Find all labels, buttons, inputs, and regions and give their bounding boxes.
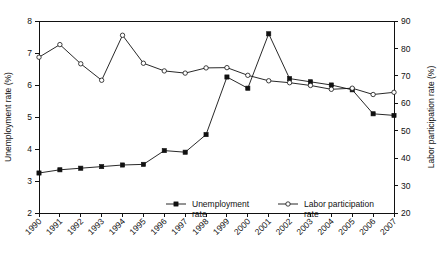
right-axis-title: Labor participation rate (%) xyxy=(426,66,436,169)
data-point-marker xyxy=(58,42,62,46)
x-axis-tick-label: 1991 xyxy=(44,216,65,237)
right-axis-tick-label: 60 xyxy=(401,98,411,108)
data-point-marker xyxy=(308,83,312,87)
left-axis-tick-label: 4 xyxy=(27,144,32,154)
data-point-marker xyxy=(246,73,250,77)
data-point-marker xyxy=(120,33,124,37)
left-axis-tick-label: 3 xyxy=(27,176,32,186)
data-point-marker xyxy=(225,65,229,69)
x-axis-tick-label: 2003 xyxy=(294,216,315,237)
left-axis-tick-label: 6 xyxy=(27,80,32,90)
x-axis-tick-label: 2006 xyxy=(357,216,378,237)
x-axis-tick-label: 2005 xyxy=(336,216,357,237)
data-point-marker xyxy=(371,112,375,116)
x-axis-tick-label: 1998 xyxy=(190,216,211,237)
right-axis-tick-label: 20 xyxy=(401,208,411,218)
left-axis-tick-label: 5 xyxy=(27,112,32,122)
data-point-marker xyxy=(329,87,333,91)
x-axis-tick-label: 1995 xyxy=(127,216,148,237)
data-point-marker xyxy=(204,133,208,137)
data-point-marker xyxy=(225,75,229,79)
x-axis-tick-label: 2007 xyxy=(378,216,399,237)
series-line-unemployment xyxy=(39,34,394,173)
data-point-marker xyxy=(329,83,333,87)
data-point-marker xyxy=(141,61,145,65)
x-axis-tick-label: 1994 xyxy=(106,216,127,237)
left-axis-tick-label: 7 xyxy=(27,48,32,58)
data-point-marker xyxy=(371,92,375,96)
legend-marker-open-circle xyxy=(286,202,290,206)
x-axis-tick-label: 1997 xyxy=(169,216,190,237)
data-point-marker xyxy=(267,79,271,83)
data-point-marker xyxy=(183,150,187,154)
right-axis-tick-label: 50 xyxy=(401,126,411,136)
data-point-marker xyxy=(204,66,208,70)
data-point-marker xyxy=(183,71,187,75)
right-axis-tick-label: 70 xyxy=(401,71,411,81)
left-axis-title: Unemployment rate (%) xyxy=(3,72,13,162)
right-axis-tick-label: 30 xyxy=(401,181,411,191)
data-point-marker xyxy=(246,86,250,90)
series-line-labor-participation xyxy=(39,35,394,94)
data-point-marker xyxy=(37,171,41,175)
data-point-marker xyxy=(162,149,166,153)
data-point-marker xyxy=(79,166,83,170)
legend-label-line1: Labor participation xyxy=(304,199,374,209)
legend-marker-filled-square xyxy=(174,202,178,206)
data-point-marker xyxy=(79,62,83,66)
data-point-marker xyxy=(267,32,271,36)
data-point-marker xyxy=(350,86,354,90)
dual-axis-line-chart: 2345678203040506070809019901991199219931… xyxy=(0,0,443,279)
data-point-marker xyxy=(287,77,291,81)
chart-container: 2345678203040506070809019901991199219931… xyxy=(0,0,443,279)
data-point-marker xyxy=(58,168,62,172)
data-point-marker xyxy=(392,113,396,117)
x-axis-tick-label: 2000 xyxy=(232,216,253,237)
right-axis-tick-label: 40 xyxy=(401,153,411,163)
data-point-marker xyxy=(287,81,291,85)
x-axis-tick-label: 2004 xyxy=(315,216,336,237)
left-axis-tick-label: 8 xyxy=(27,16,32,26)
legend-label-line1: Unemployment xyxy=(192,199,250,209)
left-axis-tick-label: 2 xyxy=(27,208,32,218)
x-axis-tick-label: 2002 xyxy=(274,216,295,237)
right-axis-tick-label: 80 xyxy=(401,44,411,54)
data-point-marker xyxy=(37,55,41,59)
x-axis-tick-label: 2001 xyxy=(253,216,274,237)
data-point-marker xyxy=(120,163,124,167)
legend-label-line2: rate xyxy=(192,209,207,219)
data-point-marker xyxy=(99,78,103,82)
right-axis-tick-label: 90 xyxy=(401,16,411,26)
x-axis-tick-label: 1999 xyxy=(211,216,232,237)
legend-item: Unemploymentrate xyxy=(166,199,250,219)
x-axis-tick-label: 1993 xyxy=(86,216,107,237)
legend-item: Labor participationrate xyxy=(278,199,374,219)
data-point-marker xyxy=(100,165,104,169)
x-axis-tick-label: 1996 xyxy=(148,216,169,237)
data-point-marker xyxy=(392,90,396,94)
x-axis-tick-label: 1990 xyxy=(23,216,44,237)
data-point-marker xyxy=(162,69,166,73)
legend-label-line2: rate xyxy=(304,209,319,219)
data-point-marker xyxy=(141,162,145,166)
x-axis-tick-label: 1992 xyxy=(65,216,86,237)
